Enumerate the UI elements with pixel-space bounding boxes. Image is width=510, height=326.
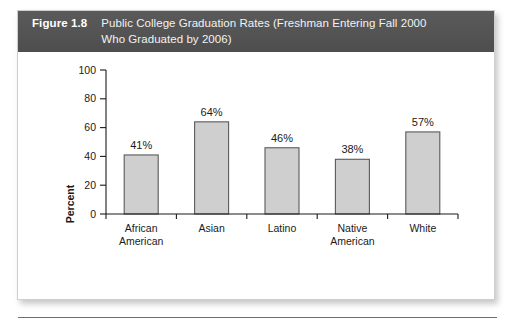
- x-category-label: African: [125, 222, 158, 234]
- y-tick-label: 100: [78, 64, 96, 76]
- x-category-label: Asian: [198, 222, 224, 234]
- bar: [406, 132, 440, 214]
- x-category-label: White: [409, 222, 436, 234]
- bar: [265, 148, 299, 214]
- x-axis-category-labels: AfricanAmericanAsianLatinoNativeAmerican…: [119, 222, 436, 247]
- figure-title-line-1: Public College Graduation Rates (Freshma…: [101, 16, 486, 32]
- chart-plot-area: Percent 020406080100 41%64%46%38%57% Afr…: [18, 52, 494, 299]
- y-tick-label: 20: [84, 179, 96, 191]
- figure-title-line-2: Who Graduated by 2006): [101, 32, 486, 48]
- figure-container: Figure 1.8 Public College Graduation Rat…: [17, 10, 495, 300]
- y-tick-label: 40: [84, 150, 96, 162]
- x-category-label: American: [330, 235, 375, 247]
- bar: [124, 155, 158, 214]
- footer-rule: [18, 317, 497, 318]
- figure-title: Public College Graduation Rates (Freshma…: [101, 16, 486, 47]
- bar: [335, 159, 369, 214]
- x-category-label: American: [119, 235, 164, 247]
- x-category-label: Native: [338, 222, 368, 234]
- x-category-label: Latino: [268, 222, 297, 234]
- bar-value-label: 64%: [201, 106, 223, 118]
- y-axis-ticks: 020406080100: [78, 64, 106, 220]
- bar-chart-svg: Percent 020406080100 41%64%46%38%57% Afr…: [18, 52, 494, 299]
- y-tick-label: 80: [84, 92, 96, 104]
- bar-value-label: 41%: [130, 139, 152, 151]
- figure-number-label: Figure 1.8: [32, 16, 87, 32]
- figure-header-bar: Figure 1.8 Public College Graduation Rat…: [18, 11, 494, 52]
- bar-value-label: 38%: [341, 143, 363, 155]
- x-axis-ticks: [106, 214, 458, 219]
- y-tick-label: 60: [84, 121, 96, 133]
- y-axis-title: Percent: [64, 184, 76, 223]
- bar: [195, 122, 229, 214]
- bar-value-label: 57%: [412, 116, 434, 128]
- bar-value-label: 46%: [271, 132, 293, 144]
- y-tick-label: 0: [90, 208, 96, 220]
